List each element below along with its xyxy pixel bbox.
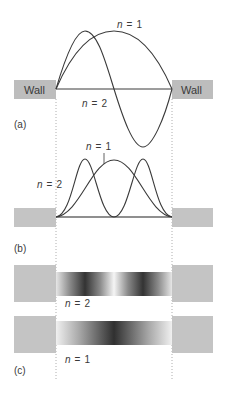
panel-a: Wall Wall n=1 n=2 (a) [14,19,213,147]
label-c-n1: n=1 [65,354,90,365]
wall-left-c-bottom [14,316,56,353]
panel-b: n=1 n=2 (b) [14,141,213,254]
panel-c-label: (c) [14,365,26,376]
wall-right-c-top [172,265,213,302]
wall-left-b [14,208,56,227]
wall-right-c-bottom [172,316,213,353]
density-n2 [56,159,172,217]
wall-right-b [172,208,213,227]
label-b-n2: n=2 [37,179,62,190]
panel-a-label: (a) [14,119,26,130]
particle-in-box-figure: Wall Wall n=1 n=2 (a) n=1 n=2 (b) n=2 n=… [0,0,226,393]
panel-b-label: (b) [14,243,26,254]
density-bar-n1 [56,321,172,345]
panel-c: n=2 n=1 (c) [14,265,213,376]
label-a-n2: n=2 [82,98,107,109]
wall-left-c-top [14,265,56,302]
density-bar-n2 [56,272,172,296]
wall-left-label: Wall [24,84,45,96]
density-n1 [56,160,172,217]
wave-n1 [56,31,172,89]
label-a-n1: n=1 [117,19,142,30]
wall-right-label: Wall [181,84,202,96]
label-b-n1: n=1 [86,141,111,152]
label-c-n2: n=2 [65,298,90,309]
